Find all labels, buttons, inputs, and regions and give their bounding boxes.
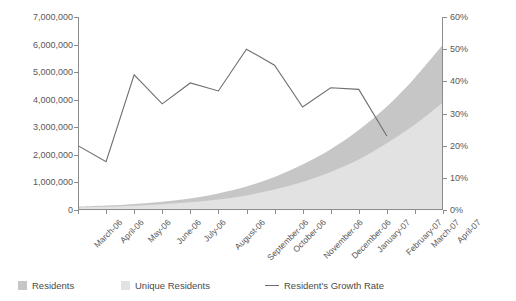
y-axis-left-line <box>78 17 79 210</box>
y-axis-right-tick <box>443 81 447 82</box>
legend-item-growth-rate[interactable]: Resident's Growth Rate <box>265 281 384 291</box>
y-axis-left-tick <box>74 45 78 46</box>
x-axis-label-june-06: June-06 <box>175 218 203 246</box>
y-axis-right-tick <box>443 17 447 18</box>
x-axis-label-march-06: March-06 <box>93 218 124 249</box>
y-axis-left-tick-label: 7,000,000 <box>33 13 73 22</box>
plot-area <box>78 17 443 210</box>
plot-svg <box>78 17 443 210</box>
y-axis-left-tick <box>74 155 78 156</box>
x-axis-label-july-06: July-06 <box>202 218 227 243</box>
legend-label: Unique Residents <box>135 281 210 291</box>
y-axis-left-tick-label: 6,000,000 <box>33 41 73 50</box>
y-axis-right-tick <box>443 146 447 147</box>
y-axis-right-tick <box>443 114 447 115</box>
y-axis-right-tick-label: 20% <box>450 142 468 151</box>
legend-swatch-icon <box>121 281 130 290</box>
y-axis-right-tick-label: 60% <box>450 13 468 22</box>
y-axis-right-tick <box>443 178 447 179</box>
y-axis-left-labels: 7,000,000 6,000,000 5,000,000 4,000,000 … <box>0 0 73 230</box>
x-axis-labels: March-06April-06May-06June-06July-06Augu… <box>0 214 516 276</box>
y-axis-left-tick-label: 1,000,000 <box>33 178 73 187</box>
legend-item-residents[interactable]: Residents <box>18 281 74 291</box>
legend-label: Residents <box>32 281 74 291</box>
y-axis-left-tick-label: 3,000,000 <box>33 123 73 132</box>
y-axis-left-tick <box>74 100 78 101</box>
chart-container: 7,000,000 6,000,000 5,000,000 4,000,000 … <box>0 0 516 301</box>
y-axis-left-tick <box>74 17 78 18</box>
y-axis-left-tick-label: 2,000,000 <box>33 151 73 160</box>
y-axis-left-tick <box>74 72 78 73</box>
x-axis-line <box>78 209 443 210</box>
y-axis-left-tick <box>74 182 78 183</box>
legend-item-unique-residents[interactable]: Unique Residents <box>121 281 210 291</box>
legend-label: Resident's Growth Rate <box>284 281 384 291</box>
y-axis-right-tick-label: 30% <box>450 110 468 119</box>
y-axis-right-tick-label: 10% <box>450 174 468 183</box>
y-axis-right-tick <box>443 49 447 50</box>
y-axis-left-tick-label: 4,000,000 <box>33 96 73 105</box>
y-axis-left-tick-label: 5,000,000 <box>33 68 73 77</box>
chart-legend: Residents Unique Residents Resident's Gr… <box>0 278 516 298</box>
x-axis-label-may-06: May-06 <box>146 218 172 244</box>
y-axis-right-tick-label: 40% <box>450 77 468 86</box>
y-axis-right-tick-label: 50% <box>450 45 468 54</box>
x-axis-label-august-06: August-06 <box>234 218 267 251</box>
y-axis-left-tick <box>74 127 78 128</box>
y-axis-right-labels: 60% 50% 40% 30% 20% 10% 0% <box>450 0 510 230</box>
legend-line-icon <box>265 285 279 286</box>
legend-swatch-icon <box>18 281 27 290</box>
